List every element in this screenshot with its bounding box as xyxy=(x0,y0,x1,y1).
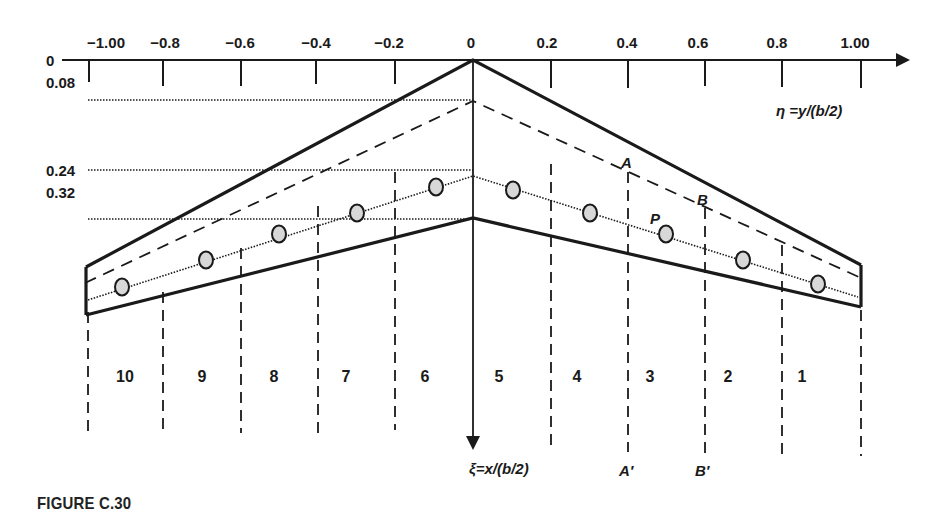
eta-tick-label: 1.00 xyxy=(840,34,869,51)
control-point xyxy=(811,276,825,293)
point-label-b-prime: B′ xyxy=(695,462,711,479)
eta-tick-label: −0.6 xyxy=(225,34,255,51)
control-point xyxy=(506,182,520,199)
strip-labels: 10 9 8 7 6 5 4 3 2 1 xyxy=(116,368,806,385)
reference-lines xyxy=(88,100,473,219)
eta-tick-labels: −1.00 −0.8 −0.6 −0.4 −0.2 0 0.2 0.4 0.6 … xyxy=(87,34,870,51)
strip-label: 7 xyxy=(342,368,351,385)
strip-label: 5 xyxy=(495,368,504,385)
wing-strip-diagram: −1.00 −0.8 −0.6 −0.4 −0.2 0 0.2 0.4 0.6 … xyxy=(0,0,946,527)
xi-axis-arrow-icon xyxy=(466,436,480,450)
xi-tick-label: 0.32 xyxy=(46,184,75,201)
point-label-a-prime: A′ xyxy=(618,462,635,479)
control-point xyxy=(583,205,597,222)
control-point xyxy=(429,179,443,196)
xi-tick-label: 0.08 xyxy=(46,74,75,91)
eta-tick-label: 0.6 xyxy=(688,34,709,51)
xi-tick-labels: 0 0.08 0.24 0.32 xyxy=(46,52,76,201)
xi-axis xyxy=(466,60,480,450)
point-label-b: B xyxy=(697,191,708,208)
eta-tick-label: −0.8 xyxy=(150,34,180,51)
point-label-a: A xyxy=(620,154,632,171)
eta-tick-label: 0 xyxy=(467,34,475,51)
control-point-p xyxy=(659,226,673,243)
control-point xyxy=(199,252,213,269)
control-point xyxy=(736,252,750,269)
eta-tick-label: −1.00 xyxy=(87,34,125,51)
point-labels: A B P A′ B′ xyxy=(618,154,711,479)
strip-boundaries xyxy=(88,164,861,456)
xi-tick-label: 0.24 xyxy=(46,162,76,179)
eta-tick-marks xyxy=(89,60,861,88)
eta-axis-label: η =y/(b/2) xyxy=(776,102,842,119)
strip-label: 2 xyxy=(724,368,733,385)
point-label-p: P xyxy=(650,210,661,227)
strip-label: 6 xyxy=(421,368,430,385)
xi-tick-label: 0 xyxy=(46,52,54,69)
control-point xyxy=(115,279,129,296)
strip-label: 4 xyxy=(573,368,582,385)
control-point xyxy=(272,226,286,243)
figure-caption: FIGURE C.30 xyxy=(37,494,131,514)
eta-tick-label: 0.2 xyxy=(537,34,558,51)
eta-tick-label: −0.2 xyxy=(374,34,404,51)
control-point xyxy=(350,205,364,222)
eta-tick-label: 0.8 xyxy=(767,34,788,51)
eta-axis-arrow-icon xyxy=(896,53,910,67)
strip-label: 1 xyxy=(798,368,807,385)
eta-tick-label: −0.4 xyxy=(301,34,331,51)
strip-label: 9 xyxy=(198,368,207,385)
strip-label: 3 xyxy=(646,368,655,385)
strip-label: 10 xyxy=(116,368,134,385)
xi-axis-label: ξ=x/(b/2) xyxy=(469,460,529,477)
eta-tick-label: 0.4 xyxy=(617,34,639,51)
strip-label: 8 xyxy=(270,368,279,385)
